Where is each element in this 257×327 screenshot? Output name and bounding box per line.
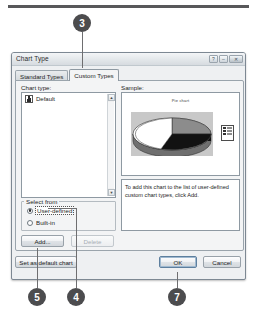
chart-plot-area <box>131 112 213 156</box>
callout-7-label: 7 <box>174 292 180 303</box>
callout-3-label: 3 <box>79 18 85 29</box>
legend-item <box>223 130 232 132</box>
callout-4-label: 4 <box>73 292 79 303</box>
close-icon[interactable]: ✕ <box>229 55 243 63</box>
sample-preview: Pie chart <box>121 92 240 176</box>
listbox-scrollbar[interactable]: ▲ ▼ <box>107 94 114 196</box>
callout-5: 5 <box>28 288 46 306</box>
chart-type-listbox[interactable]: Default ▲ ▼ <box>21 92 116 198</box>
legend-text <box>227 127 232 129</box>
legend-swatch <box>223 133 226 135</box>
callout-7-leader <box>177 272 178 288</box>
radio-user-defined-icon[interactable] <box>27 208 33 214</box>
scroll-up-icon[interactable]: ▲ <box>108 94 115 101</box>
minimize-glyph: – <box>222 57 225 62</box>
legend-item <box>223 127 232 129</box>
callout-7: 7 <box>168 288 186 306</box>
legend-text <box>227 130 232 132</box>
bar-chart-icon <box>25 95 33 103</box>
sample-description: To add this chart to the list of user-de… <box>121 179 240 231</box>
cancel-button[interactable]: Cancel <box>203 256 241 268</box>
add-button[interactable]: Add... <box>21 235 64 247</box>
radio-built-in[interactable]: Built-in <box>27 219 55 226</box>
cancel-button-label: Cancel <box>212 259 231 266</box>
list-item-label: Default <box>36 96 55 102</box>
chart-type-dialog: Chart Type ? – ✕ Standard Types Custom T… <box>11 52 246 280</box>
custom-types-panel: Chart type: Default ▲ ▼ <box>15 80 244 251</box>
set-default-button-label: Set as default chart <box>19 259 72 266</box>
callout-4-leader-vertical <box>76 208 77 288</box>
minimize-icon[interactable]: – <box>219 55 228 63</box>
dialog-titlebar[interactable]: Chart Type ? – ✕ <box>12 53 245 66</box>
chart-legend <box>221 125 234 141</box>
scroll-down-icon[interactable]: ▼ <box>108 189 115 196</box>
radio-built-in-label: Built-in <box>36 219 55 226</box>
close-glyph: ✕ <box>234 57 238 62</box>
help-glyph: ? <box>212 57 215 62</box>
radio-built-in-icon[interactable] <box>27 220 33 226</box>
chart-title: Pie chart <box>122 98 239 103</box>
window-button-group: ? – ✕ <box>209 55 243 63</box>
sample-description-text: To add this chart to the list of user-de… <box>125 184 229 198</box>
delete-button-label: Delete <box>84 238 102 245</box>
legend-swatch <box>223 130 226 132</box>
callout-3-leader <box>82 32 83 68</box>
callout-4: 4 <box>67 288 85 306</box>
callout-5-leader <box>37 248 38 288</box>
callout-4-leader-horizontal <box>48 208 76 209</box>
scrollbar-track[interactable] <box>108 102 114 188</box>
legend-swatch <box>223 127 226 129</box>
dialog-footer: Set as default chart OK Cancel <box>15 252 244 276</box>
tab-standard-types-label: Standard Types <box>20 73 63 80</box>
callout-5-label: 5 <box>34 292 40 303</box>
ok-button-label: OK <box>174 259 183 266</box>
help-icon[interactable]: ? <box>209 55 218 63</box>
set-default-button[interactable]: Set as default chart <box>15 256 77 268</box>
scroll-up-glyph: ▲ <box>110 96 114 100</box>
chart-type-label: Chart type: <box>21 84 51 91</box>
add-button-label: Add... <box>34 238 50 245</box>
scroll-down-glyph: ▼ <box>110 191 114 195</box>
screenshot-root: 3 Chart Type ? – ✕ Standard Types <box>0 0 257 327</box>
tab-custom-types-label: Custom Types <box>74 72 113 79</box>
ok-button[interactable]: OK <box>159 256 197 268</box>
select-from-group: User-defined Built-in <box>21 201 116 231</box>
delete-button: Delete <box>71 235 114 247</box>
legend-text <box>227 133 232 135</box>
sample-label: Sample: <box>121 84 144 91</box>
list-item[interactable]: Default <box>23 94 114 104</box>
select-from-title: Select from <box>24 198 59 205</box>
dialog-title: Chart Type <box>16 55 49 62</box>
callout-3: 3 <box>73 14 91 32</box>
top-divider-rule <box>8 5 249 8</box>
tab-custom-types[interactable]: Custom Types <box>69 69 118 81</box>
pie-chart-svg <box>131 112 213 156</box>
legend-item <box>223 133 232 135</box>
